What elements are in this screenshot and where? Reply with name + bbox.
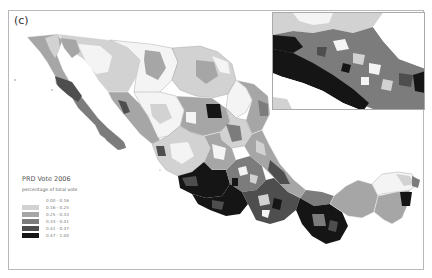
legend-subtitle: percentage of total vote [22, 187, 78, 192]
region-center-speckle3 [232, 178, 238, 186]
island-speck [51, 89, 52, 90]
region-zacatecas-pale [186, 112, 196, 124]
legend-label: 0.41 - 0.47 [46, 226, 69, 231]
map-legend: PRD Vote 2006 percentage of total vote 0… [22, 175, 78, 239]
inset-speckle-h [361, 77, 369, 85]
legend-title: PRD Vote 2006 [22, 175, 78, 183]
legend-row: 0.41 - 0.47 [22, 225, 78, 232]
region-quintanaroo-black [400, 192, 412, 206]
legend-classes: 0.00 - 0.160.16 - 0.250.25 - 0.330.33 - … [22, 197, 78, 239]
inset-speckle-c [369, 63, 381, 75]
inset-speckle-f [381, 79, 393, 91]
legend-swatch [22, 198, 39, 203]
legend-row: 0.16 - 0.25 [22, 204, 78, 211]
inset-speckle-b [353, 53, 365, 65]
legend-label: 0.47 - 1.00 [46, 233, 69, 238]
inset-choropleth [273, 13, 425, 110]
legend-swatch [22, 212, 39, 217]
legend-swatch [22, 233, 39, 238]
legend-row: 0.00 - 0.16 [22, 197, 78, 204]
island-speck [159, 169, 160, 170]
legend-label: 0.16 - 0.25 [46, 205, 69, 210]
legend-swatch [22, 219, 39, 224]
region-chiapas-mid [312, 214, 326, 226]
legend-row: 0.25 - 0.33 [22, 211, 78, 218]
legend-label: 0.00 - 0.16 [46, 198, 69, 203]
panel-label: (c) [14, 14, 29, 27]
region-zacatecas-black [206, 104, 222, 118]
legend-label: 0.33 - 0.41 [46, 219, 69, 224]
legend-swatch [22, 226, 39, 231]
region-yucatan-dark [412, 176, 420, 188]
island-speck [14, 79, 16, 81]
legend-swatch [22, 205, 39, 210]
legend-row: 0.33 - 0.41 [22, 218, 78, 225]
inset-speckle-g [399, 73, 413, 87]
legend-label: 0.25 - 0.33 [46, 212, 69, 217]
legend-row: 0.47 - 1.00 [22, 232, 78, 239]
inset-map [272, 12, 425, 110]
region-oaxaca-speckle1 [258, 194, 270, 206]
